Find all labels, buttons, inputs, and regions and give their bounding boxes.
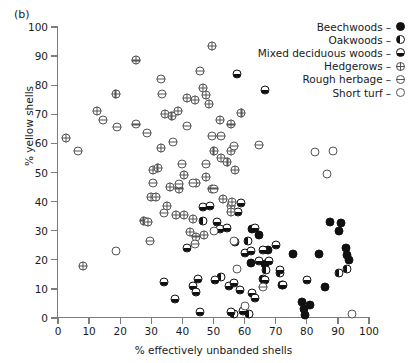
y-tick — [51, 85, 57, 86]
legend-marker-bottom-half-filled-circle-icon — [396, 48, 405, 57]
data-point-hedge — [179, 210, 188, 219]
x-tick-label: 50 — [197, 326, 231, 337]
y-tick — [51, 259, 57, 260]
data-point-beech — [321, 283, 330, 292]
data-point-short — [229, 236, 238, 245]
data-point-beech — [337, 219, 346, 228]
data-point-short — [232, 264, 241, 273]
y-tick — [51, 288, 57, 289]
data-point-mixed — [192, 287, 201, 296]
data-point-beech — [315, 249, 324, 258]
legend-dash: – — [383, 21, 396, 33]
legend-label: Rough herbage — [303, 73, 383, 85]
legend-label: Hedgerows — [324, 60, 383, 72]
data-point-rough — [74, 146, 83, 155]
data-point-rough — [145, 236, 154, 245]
data-point-hedge — [61, 133, 70, 142]
data-point-mixed — [234, 207, 243, 216]
data-point-beech — [305, 300, 314, 309]
legend-dash: – — [383, 60, 396, 72]
data-point-rough — [259, 283, 268, 292]
data-point-rough — [207, 132, 216, 141]
data-point-hedge — [144, 217, 153, 226]
data-point-oak — [198, 216, 207, 225]
data-point-mixed — [265, 257, 274, 266]
data-point-rough — [159, 209, 168, 218]
data-point-short — [111, 247, 120, 256]
data-point-mixed — [246, 247, 255, 256]
data-point-rough — [142, 129, 151, 138]
data-point-mixed — [259, 245, 268, 254]
data-point-hedge — [156, 143, 165, 152]
legend-marker-crossed-circle-icon — [396, 62, 405, 71]
x-tick — [368, 318, 369, 324]
data-point-rough — [254, 140, 263, 149]
data-point-hedge — [218, 194, 227, 203]
x-tick-label: 100 — [352, 326, 386, 337]
legend-item-mixed: Mixed deciduous woods– — [217, 46, 407, 59]
data-point-short — [310, 148, 319, 157]
panel-label: (b) — [14, 8, 30, 21]
legend-marker-left-half-filled-circle-icon — [396, 35, 405, 44]
data-point-rough — [189, 178, 198, 187]
data-point-rough — [183, 121, 192, 130]
legend-dash: – — [383, 47, 396, 59]
x-tick-label: 20 — [103, 326, 137, 337]
y-tick — [51, 172, 57, 173]
data-point-mixed — [276, 265, 285, 274]
data-point-rough — [156, 75, 165, 84]
y-tick — [51, 230, 57, 231]
data-point-hedge — [92, 107, 101, 116]
data-point-short — [323, 169, 332, 178]
data-point-hedge — [200, 231, 209, 240]
x-tick — [57, 318, 58, 324]
y-tick — [51, 143, 57, 144]
data-point-rough — [178, 159, 187, 168]
data-point-rough — [190, 239, 199, 248]
y-tick — [51, 55, 57, 56]
data-point-hedge — [131, 56, 140, 65]
x-tick — [244, 318, 245, 324]
data-point-hedge — [215, 116, 224, 125]
data-point-mixed — [271, 241, 280, 250]
data-point-hedge — [173, 107, 182, 116]
legend-label: Short turf — [332, 87, 382, 99]
data-point-mixed — [254, 257, 263, 266]
data-point-rough — [195, 66, 204, 75]
data-point-mixed — [251, 293, 260, 302]
y-tick-label: 10 — [14, 284, 48, 295]
data-point-mixed — [279, 280, 288, 289]
legend-marker-horizontal-line-circle-icon — [396, 75, 405, 84]
data-point-oak — [262, 265, 271, 274]
data-point-rough — [217, 132, 226, 141]
legend-item-short: Short turf– — [217, 86, 407, 99]
data-point-oak — [243, 236, 252, 245]
data-point-hedge — [78, 261, 87, 270]
x-tick-label: 90 — [321, 326, 355, 337]
data-point-mixed — [235, 286, 244, 295]
data-point-hedge — [165, 183, 174, 192]
x-tick-label: 10 — [72, 326, 106, 337]
x-tick — [120, 318, 121, 324]
data-point-rough — [148, 178, 157, 187]
x-tick — [151, 318, 152, 324]
data-point-short — [329, 146, 338, 155]
x-tick-label: 40 — [165, 326, 199, 337]
legend-marker-filled-circle-icon — [396, 22, 405, 31]
y-tick-label: 20 — [14, 255, 48, 266]
data-point-beech — [301, 311, 310, 320]
data-point-beech — [344, 255, 353, 264]
y-tick — [51, 114, 57, 115]
y-tick — [51, 26, 57, 27]
data-point-beech — [288, 249, 297, 258]
x-tick-label: 70 — [259, 326, 293, 337]
legend-item-rough: Rough herbage– — [217, 73, 407, 86]
y-tick-label: 0 — [14, 313, 48, 324]
legend-label: Oakwoods — [328, 34, 382, 46]
data-point-hedge — [207, 41, 216, 50]
data-point-rough — [113, 123, 122, 132]
data-point-hedge — [190, 95, 199, 104]
legend-item-oak: Oakwoods– — [217, 33, 407, 46]
data-point-hedge — [209, 146, 218, 155]
x-tick-label: 0 — [41, 326, 75, 337]
